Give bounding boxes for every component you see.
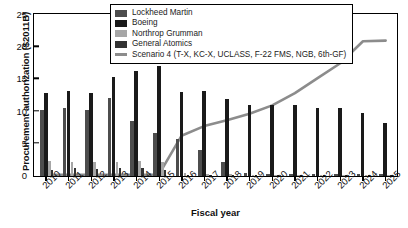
- legend-swatch-icon: [115, 30, 127, 37]
- bar: [293, 105, 297, 176]
- y-axis-tick-label: 10: [16, 105, 34, 116]
- legend-item-label: Scenario 4 (T-X, KC-X, UCLASS, F-22 FMS,…: [132, 50, 346, 60]
- bar: [157, 66, 161, 176]
- y-axis-tick-label: 20: [16, 41, 34, 52]
- y-axis-tick-mark: [34, 142, 39, 143]
- bar: [202, 91, 206, 176]
- legend-item: General Atomics: [115, 39, 346, 49]
- legend-swatch-icon: [115, 10, 127, 17]
- bar-group: [357, 14, 370, 176]
- y-axis-tick-label: 25: [16, 9, 34, 20]
- legend-swatch-icon: [115, 53, 127, 56]
- bar: [112, 77, 116, 176]
- y-axis-tick-mark: [34, 78, 39, 79]
- y-axis-tick-label: 0: [22, 170, 34, 181]
- chart-legend: Lockheed MartinBoeingNorthrop GrummanGen…: [110, 4, 353, 64]
- bar: [361, 113, 365, 176]
- bar-group: [379, 14, 392, 176]
- y-axis-tick-mark: [34, 46, 39, 47]
- bar-group: [63, 14, 76, 176]
- legend-item-label: Lockheed Martin: [132, 8, 193, 18]
- y-axis-title: Procurement authorization ($2011B): [20, 7, 31, 177]
- bar: [338, 108, 342, 176]
- procurement-authorization-chart: Procurement authorization ($2011B) 05101…: [0, 0, 408, 228]
- bar-group: [40, 14, 53, 176]
- legend-item: Northrop Grumman: [115, 29, 346, 39]
- bar: [270, 105, 274, 176]
- legend-item: Lockheed Martin: [115, 8, 346, 18]
- bar: [180, 92, 184, 176]
- legend-item: Scenario 4 (T-X, KC-X, UCLASS, F-22 FMS,…: [115, 50, 346, 60]
- bar: [248, 105, 252, 176]
- legend-item-label: Boeing: [132, 18, 158, 28]
- legend-item-label: Northrop Grumman: [132, 29, 203, 39]
- bar: [225, 99, 229, 176]
- bar: [383, 123, 387, 176]
- y-axis-tick-mark: [34, 110, 39, 111]
- y-axis-tick-label: 5: [22, 137, 34, 148]
- legend-item-label: General Atomics: [132, 39, 192, 49]
- bar: [316, 108, 320, 176]
- legend-swatch-icon: [115, 41, 127, 48]
- bar-group: [85, 14, 98, 176]
- x-axis-title: Fiscal year: [33, 207, 398, 218]
- legend-swatch-icon: [115, 20, 127, 27]
- legend-item: Boeing: [115, 18, 346, 28]
- y-axis-tick-label: 15: [16, 73, 34, 84]
